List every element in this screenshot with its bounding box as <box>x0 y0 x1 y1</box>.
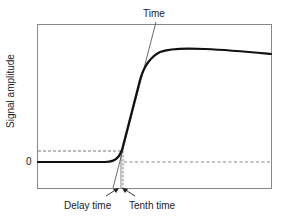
response-diagram <box>0 0 282 221</box>
tenth-time-arrow <box>122 188 135 196</box>
y-axis-label: Signal amplitude <box>6 54 16 128</box>
tenth-time-label: Tenth time <box>129 201 175 211</box>
signal-curve <box>38 48 271 162</box>
zero-tick-label: 0 <box>26 157 32 167</box>
time-label: Time <box>143 9 165 19</box>
delay-time-label: Delay time <box>64 201 111 211</box>
plot-frame <box>38 25 272 189</box>
delay-time-arrow <box>106 188 119 196</box>
